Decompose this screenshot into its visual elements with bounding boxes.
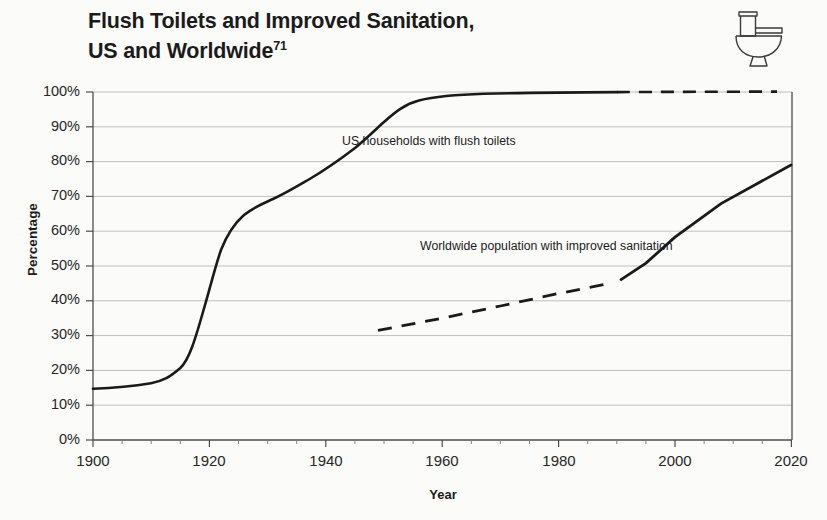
- y-tick-60: 60%: [18, 222, 80, 238]
- x-tick-1980: 1980: [519, 452, 599, 469]
- y-tick-10: 10%: [18, 396, 80, 412]
- y-tick-90: 90%: [18, 118, 80, 134]
- y-tick-30: 30%: [18, 326, 80, 342]
- y-tick-100: 100%: [18, 83, 80, 99]
- x-axis-label: Year: [93, 487, 793, 502]
- series-worldwide-sanitation-dashed: [378, 285, 604, 331]
- y-tick-50: 50%: [18, 257, 80, 273]
- chart-plot-area: [0, 0, 827, 520]
- y-tick-70: 70%: [18, 187, 80, 203]
- x-tick-2020: 2020: [751, 452, 827, 469]
- y-tick-20: 20%: [18, 361, 80, 377]
- x-tick-1960: 1960: [402, 452, 482, 469]
- x-tick-1940: 1940: [286, 452, 366, 469]
- series-worldwide-sanitation-solid: [621, 165, 791, 280]
- x-tick-1920: 1920: [169, 452, 249, 469]
- series-label-us-flush-toilets: US households with flush toilets: [342, 134, 516, 148]
- x-tick-1900: 1900: [53, 452, 133, 469]
- x-axis-major-ticks: [93, 440, 791, 447]
- y-tick-0: 0%: [18, 431, 80, 447]
- x-tick-2000: 2000: [635, 452, 715, 469]
- y-axis-ticks: [86, 92, 93, 440]
- chart-figure: Flush Toilets and Improved Sanitation, U…: [0, 0, 827, 520]
- y-tick-40: 40%: [18, 291, 80, 307]
- y-tick-80: 80%: [18, 152, 80, 168]
- series-label-worldwide-sanitation: Worldwide population with improved sanit…: [420, 239, 673, 253]
